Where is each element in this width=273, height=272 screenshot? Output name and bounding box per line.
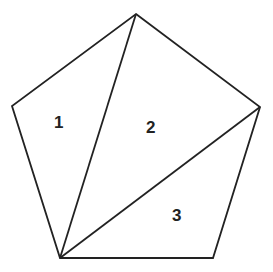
region-label-3: 3 bbox=[172, 206, 181, 225]
diagonal-bottomleft-to-top bbox=[60, 14, 136, 258]
pentagon-diagram: 1 2 3 bbox=[0, 0, 273, 272]
region-label-2: 2 bbox=[146, 118, 155, 137]
region-label-1: 1 bbox=[54, 113, 63, 132]
diagonal-bottomleft-to-right bbox=[60, 107, 260, 258]
